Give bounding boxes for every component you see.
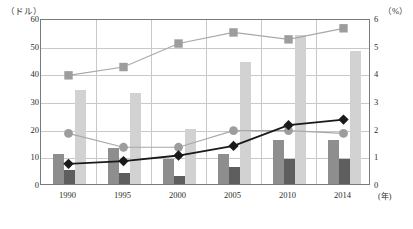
x-axis-tick-label: 1990 [59, 190, 76, 200]
right-axis-tick-label: 3 [374, 97, 404, 107]
marker-line-diamond-series-2000 [173, 150, 183, 160]
marker-line-circle-series-1990 [64, 129, 73, 138]
left-axis-tick-label: 40 [9, 69, 39, 79]
right-axis-tick-label: 5 [374, 42, 404, 52]
right-axis-tick-label: 1 [374, 152, 404, 162]
marker-line-diamond-series-2005 [228, 141, 238, 151]
line-line-square-series [69, 28, 344, 75]
marker-line-square-series-2014 [339, 24, 347, 32]
marker-line-circle-series-2000 [174, 143, 183, 152]
left-axis-tick-label: 60 [9, 14, 39, 24]
left-axis-tick-label: 0 [9, 180, 39, 190]
marker-line-circle-series-2014 [339, 129, 348, 138]
lines-layer [41, 20, 371, 186]
right-axis-tick-label: 0 [374, 180, 404, 190]
left-axis-tick-label: 10 [9, 152, 39, 162]
chart-figure: （ドル） （%） 0102030405060 0123456 199019952… [0, 0, 413, 229]
x-axis-tick-label: 1995 [114, 190, 131, 200]
right-axis-tick-label: 6 [374, 14, 404, 24]
marker-line-square-series-2005 [229, 28, 237, 36]
line-line-circle-series [69, 131, 344, 148]
left-axis-tick-label: 20 [9, 125, 39, 135]
marker-line-diamond-series-2014 [338, 114, 348, 124]
marker-line-square-series-1990 [64, 71, 72, 79]
marker-line-circle-series-1995 [119, 143, 128, 152]
marker-line-diamond-series-1990 [63, 159, 73, 169]
right-axis-tick-label: 4 [374, 69, 404, 79]
marker-line-circle-series-2005 [229, 126, 238, 135]
x-axis-tick-label: 2000 [169, 190, 186, 200]
marker-line-square-series-1995 [119, 63, 127, 71]
left-axis-tick-label: 30 [9, 97, 39, 107]
x-axis-unit-label: (年) [378, 190, 391, 201]
x-axis-tick-label: 2014 [334, 190, 351, 200]
x-axis-tick-label: 2010 [279, 190, 296, 200]
left-axis-tick-label: 50 [9, 42, 39, 52]
plot-area [40, 19, 370, 185]
line-line-diamond-series [69, 120, 344, 164]
marker-line-diamond-series-1995 [118, 156, 128, 166]
x-axis-tick-label: 2005 [224, 190, 241, 200]
marker-line-square-series-2010 [284, 35, 292, 43]
right-axis-tick-label: 2 [374, 125, 404, 135]
marker-line-square-series-2000 [174, 39, 182, 47]
